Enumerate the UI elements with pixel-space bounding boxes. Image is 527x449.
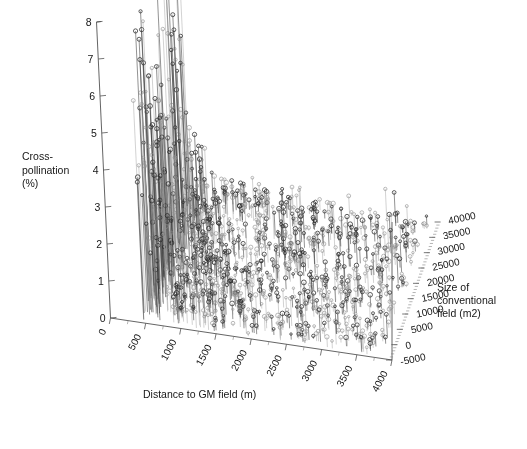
z-tick-label: 0	[100, 312, 106, 324]
z-tick-label: 4	[93, 164, 99, 176]
x-tick-label: 500	[126, 332, 144, 352]
data-points-layer	[131, 0, 428, 354]
y-tick-label: 20000	[426, 272, 456, 289]
y-tick-label: 5000	[410, 320, 434, 335]
x-tick-label: 2500	[264, 353, 284, 378]
z-axis: 012345678	[86, 16, 117, 324]
x-axis: 05001000150020002500300035004000 Distanc…	[96, 318, 392, 400]
plot-svg: 012345678 050010001500200025003000350040…	[0, 0, 527, 449]
z-tick-label: 3	[94, 201, 100, 213]
y-tick-label: 30000	[436, 240, 466, 257]
z-tick-label: 2	[96, 238, 102, 250]
z-tick-label: 6	[89, 90, 95, 102]
x-tick-label: 0	[96, 326, 109, 336]
y-tick-label: 25000	[431, 256, 461, 273]
x-tick-label: 1500	[194, 342, 214, 367]
figure-canvas: Cross- pollination (%) Size of conventio…	[0, 0, 527, 449]
x-tick-label: 1000	[158, 337, 178, 362]
y-tick-label: 15000	[420, 287, 450, 304]
x-axis-tick-labels: 05001000150020002500300035004000	[96, 326, 390, 393]
y-tick-label: 0	[405, 339, 413, 351]
x-tick-label: 3500	[334, 363, 354, 388]
y-tick-label: -5000	[399, 351, 427, 367]
y-tick-label: 10000	[415, 303, 445, 320]
x-axis-title: Distance to GM field (m)	[143, 388, 256, 400]
y-axis-tick-labels: -500005000100001500020000250003000035000…	[399, 210, 477, 368]
x-axis-ticks	[109, 318, 392, 366]
z-tick-label: 1	[98, 275, 104, 287]
x-tick-label: 4000	[370, 368, 390, 393]
x-tick-label: 2000	[229, 347, 249, 372]
y-axis: -500005000100001500020000250003000035000…	[386, 210, 477, 368]
y-tick-label: 35000	[442, 225, 472, 242]
z-tick-label: 8	[86, 16, 92, 28]
z-tick-label: 5	[91, 127, 97, 139]
z-axis-ticks	[97, 21, 117, 318]
z-axis-tick-labels: 012345678	[86, 16, 106, 324]
z-tick-label: 7	[87, 53, 93, 65]
x-tick-label: 3000	[299, 358, 319, 383]
y-tick-label: 40000	[447, 210, 477, 227]
